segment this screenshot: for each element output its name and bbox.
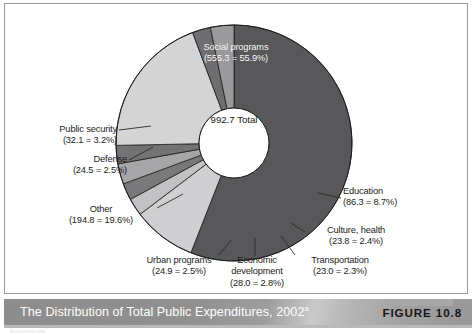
label-education-value: (86.3 = 8.7%)	[343, 197, 453, 208]
label-public-security-value: (32.1 = 3.2%)	[11, 135, 117, 146]
label-culture-health[interactable]: Culture, health (23.8 = 2.4%)	[309, 225, 403, 248]
label-urban-programs-value: (24.9 = 2.5%)	[130, 266, 228, 277]
label-economic-development-value: (28.0 = 2.8%)	[221, 278, 293, 289]
figure-caption-bar: The Distribution of Total Public Expendi…	[4, 299, 472, 325]
label-transportation[interactable]: Transportation (23.0 = 2.3%)	[293, 255, 387, 278]
label-education-name: Education	[343, 186, 453, 197]
figure-caption-superscript: a	[304, 304, 308, 313]
center-total-label: Total	[237, 114, 257, 125]
label-urban-programs-name: Urban programs	[130, 255, 228, 266]
bottom-strip	[4, 325, 472, 328]
figure-caption: The Distribution of Total Public Expendi…	[20, 304, 309, 319]
label-public-security[interactable]: Public security (32.1 = 3.2%)	[11, 124, 117, 147]
label-public-security-name: Public security	[11, 124, 117, 135]
label-other-value: (194.8 = 19.6%)	[47, 215, 155, 226]
footnote-ghost-text: Expenditures	[10, 328, 45, 334]
label-economic-development-name-1: Economic	[221, 255, 293, 266]
label-education[interactable]: Education (86.3 = 8.7%)	[343, 186, 453, 209]
chart-frame: 992.7 Total Social programs (555.3 = 55.…	[4, 3, 468, 294]
label-transportation-name: Transportation	[293, 255, 387, 266]
label-other-name: Other	[47, 204, 155, 215]
figure-caption-text: The Distribution of Total Public Expendi…	[20, 305, 304, 319]
label-other[interactable]: Other (194.8 = 19.6%)	[47, 204, 155, 227]
label-economic-development-name-2: development	[221, 266, 293, 277]
label-urban-programs[interactable]: Urban programs (24.9 = 2.5%)	[130, 255, 228, 278]
label-social-programs-value: (555.3 = 55.9%)	[174, 53, 298, 64]
label-culture-health-value: (23.8 = 2.4%)	[309, 236, 403, 247]
label-social-programs-name: Social programs	[174, 42, 298, 53]
label-economic-development[interactable]: Economic development (28.0 = 2.8%)	[221, 255, 293, 289]
label-defense[interactable]: Defense (24.5 = 2.5%)	[21, 154, 127, 177]
center-total-value: 992.7	[211, 114, 235, 125]
label-culture-health-name: Culture, health	[309, 225, 403, 236]
label-transportation-value: (23.0 = 2.3%)	[293, 266, 387, 277]
label-defense-name: Defense	[21, 154, 127, 165]
figure-accent-block	[387, 299, 453, 306]
label-social-programs[interactable]: Social programs (555.3 = 55.9%)	[174, 42, 298, 65]
figure-number-label: FIGURE 10.8	[383, 306, 463, 319]
donut-center-total: 992.7 Total	[203, 114, 265, 126]
figure-10-8: 992.7 Total Social programs (555.3 = 55.…	[0, 0, 476, 335]
label-defense-value: (24.5 = 2.5%)	[21, 165, 127, 176]
